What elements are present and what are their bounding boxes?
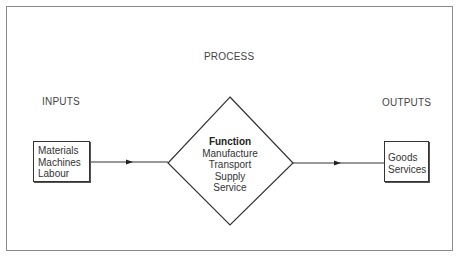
inputs-box: Materials Machines Labour bbox=[33, 141, 90, 182]
function-item: Manufacture bbox=[180, 148, 280, 160]
inputs-label: INPUTS bbox=[42, 96, 80, 107]
outputs-box: Goods Services bbox=[384, 141, 429, 182]
process-label: PROCESS bbox=[204, 51, 254, 62]
function-item: Service bbox=[180, 182, 280, 194]
output-arrowhead-icon bbox=[334, 161, 341, 166]
output-item: Goods bbox=[388, 152, 428, 164]
input-item: Materials bbox=[38, 145, 89, 157]
input-arrowhead-icon bbox=[126, 160, 133, 165]
function-item: Transport bbox=[180, 159, 280, 171]
function-text: Function Manufacture Transport Supply Se… bbox=[180, 136, 280, 194]
diagram-connectors bbox=[0, 0, 459, 257]
outputs-label: OUTPUTS bbox=[382, 97, 431, 108]
function-heading: Function bbox=[180, 136, 280, 148]
output-item: Services bbox=[388, 164, 428, 176]
function-item: Supply bbox=[180, 171, 280, 183]
input-item: Machines bbox=[38, 157, 89, 169]
input-item: Labour bbox=[38, 168, 89, 180]
